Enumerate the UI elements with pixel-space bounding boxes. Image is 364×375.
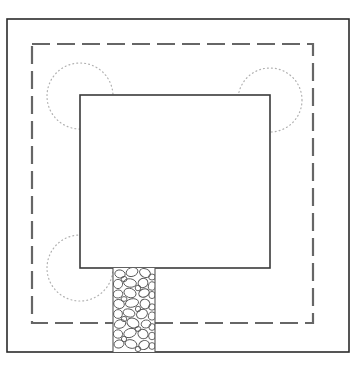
site-plan-canvas [0,0,364,375]
building-footprint-rect [80,95,270,268]
cobblestone-walkway [113,266,157,352]
site-plan-drawing [0,0,364,375]
